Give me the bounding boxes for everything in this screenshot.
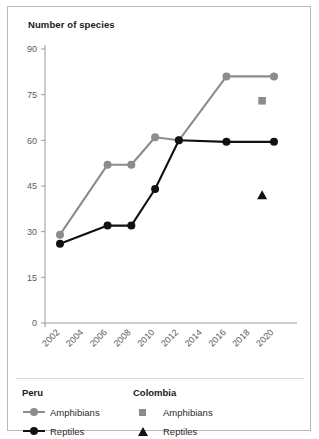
data-point-circle [222,138,230,146]
legend-label: Amphibians [50,407,100,418]
chart-legend: Peru Amphibians Reptiles Colombia Amphib… [8,385,312,439]
line-circle-marker-icon [22,405,46,419]
x-axis-tick-label: 2020 [254,327,275,348]
series-line [60,140,274,244]
data-point-circle [151,133,159,141]
y-axis-tick-label: 30 [27,227,37,237]
legend-group-title-peru: Peru [22,387,43,398]
legend-divider [16,378,304,379]
legend-group-title-colombia: Colombia [133,387,176,398]
x-axis-tick-label: 2006 [88,327,109,348]
triangle-marker-icon [135,424,159,438]
x-axis-tick-label: 2010 [135,327,156,348]
square-marker-icon [135,405,159,419]
y-axis-tick-label: 75 [27,90,37,100]
data-point-circle [104,161,112,169]
x-axis-tick-label: 2012 [159,327,180,348]
data-point-circle [270,72,278,80]
data-point-circle [151,185,159,193]
data-point-circle [56,240,64,248]
data-point-circle [56,231,64,239]
legend-label: Reptiles [163,426,197,437]
y-axis-tick-label: 15 [27,273,37,283]
chart-card: Number of species 0153045607590200220042… [7,6,311,431]
data-point-square [258,97,266,105]
data-point-circle [270,138,278,146]
x-axis-tick-label: 2002 [40,327,61,348]
data-point-circle [175,136,183,144]
x-axis-tick-label: 2016 [207,327,228,348]
x-axis-tick-label: 2008 [112,327,133,348]
legend-item-colombia-reptiles[interactable]: Reptiles [135,424,197,438]
x-axis-tick-label: 2004 [64,327,85,348]
chart-plot-area: 0153045607590200220042006200820102012201… [8,7,312,379]
legend-label: Amphibians [163,407,213,418]
legend-item-colombia-amphibians[interactable]: Amphibians [135,405,213,419]
data-point-triangle [257,190,267,199]
legend-item-peru-amphibians[interactable]: Amphibians [22,405,100,419]
legend-label: Reptiles [50,426,84,437]
x-axis-tick-label: 2014 [183,327,204,348]
line-circle-marker-icon [22,424,46,438]
y-axis-tick-label: 45 [27,181,37,191]
y-axis-tick-label: 0 [32,318,37,328]
data-point-circle [104,222,112,230]
x-axis-tick-label: 2018 [230,327,251,348]
data-point-circle [127,161,135,169]
data-point-circle [127,222,135,230]
legend-item-peru-reptiles[interactable]: Reptiles [22,424,84,438]
data-point-circle [222,72,230,80]
series-line [60,76,274,234]
y-axis-tick-label: 90 [27,44,37,54]
y-axis-tick-label: 60 [27,136,37,146]
